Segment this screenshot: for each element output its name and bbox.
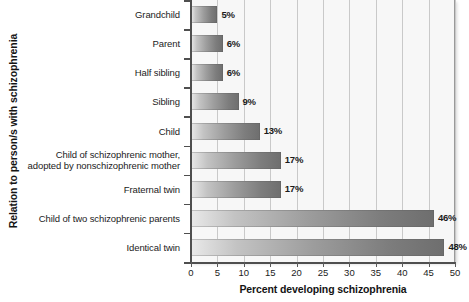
y-axis-tick <box>184 175 191 177</box>
y-axis-tick <box>184 29 191 31</box>
x-axis-tick-label: 5 <box>215 267 220 278</box>
category-label-line: Identical twin <box>126 242 180 253</box>
x-axis-tick-label: 0 <box>188 267 193 278</box>
category-label: Half sibling <box>135 67 180 78</box>
category-label: Sibling <box>152 96 180 107</box>
category-axis-labels: GrandchildParentHalf siblingSiblingChild… <box>26 0 185 262</box>
category-label: Child <box>159 126 180 137</box>
x-axis-tick-label: 10 <box>239 267 250 278</box>
y-axis-tick <box>184 233 191 235</box>
x-axis-tick-label: 20 <box>291 267 302 278</box>
category-label-line: Parent <box>153 38 180 49</box>
x-axis-tick-label: 35 <box>371 267 382 278</box>
x-axis-tick-label: 30 <box>344 267 355 278</box>
x-axis-tick-label: 50 <box>450 267 461 278</box>
y-axis-ticks <box>184 0 191 262</box>
x-axis-title: Percent developing schizophrenia <box>191 283 455 295</box>
bar-value-label: 5% <box>221 9 234 20</box>
bar-value-labels: 5%6%6%9%13%17%17%46%48% <box>191 0 469 262</box>
y-axis-tick <box>184 146 191 148</box>
category-label-line: Grandchild <box>135 9 180 20</box>
bar-value-label: 48% <box>448 241 466 252</box>
y-axis-tick <box>184 204 191 206</box>
x-axis-tick-label: 25 <box>318 267 329 278</box>
bar-value-label: 6% <box>227 38 240 49</box>
bar-value-label: 17% <box>285 154 303 165</box>
category-label: Parent <box>153 38 180 49</box>
bar-value-label: 17% <box>285 183 303 194</box>
category-label-line: Fraternal twin <box>124 184 180 195</box>
category-label-line: adopted by nonschizophrenic mother <box>28 160 180 171</box>
category-label: Grandchild <box>135 9 180 20</box>
y-axis-tick <box>184 87 191 89</box>
bar-chart: Relation to person/s with schizophrenia … <box>0 0 469 302</box>
y-axis-title: Relation to person/s with schizophrenia <box>0 0 26 262</box>
category-label-line: Half sibling <box>135 67 180 78</box>
category-label-line: Child <box>159 126 180 137</box>
category-label-line: Child of schizophrenic mother, <box>28 149 180 160</box>
category-label-line: Child of two schizophrenic parents <box>39 213 180 224</box>
y-axis-tick <box>184 58 191 60</box>
category-label: Identical twin <box>126 242 180 253</box>
bar-value-label: 46% <box>438 212 456 223</box>
y-axis-tick <box>184 0 191 2</box>
y-axis-tick <box>184 116 191 118</box>
x-axis-tick-label: 45 <box>423 267 434 278</box>
category-label-line: Sibling <box>152 96 180 107</box>
x-axis-tick-label: 15 <box>265 267 276 278</box>
category-label: Child of two schizophrenic parents <box>39 213 180 224</box>
bar-value-label: 9% <box>243 96 256 107</box>
category-label: Child of schizophrenic mother,adopted by… <box>28 149 180 171</box>
x-axis-tick-labels: 05101520253035404550 <box>191 267 455 281</box>
category-label: Fraternal twin <box>124 184 180 195</box>
x-axis-tick-label: 40 <box>397 267 408 278</box>
bar-value-label: 13% <box>264 125 282 136</box>
y-axis-title-text: Relation to person/s with schizophrenia <box>7 34 19 228</box>
bar-value-label: 6% <box>227 67 240 78</box>
